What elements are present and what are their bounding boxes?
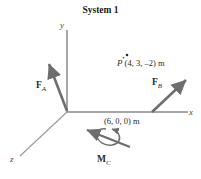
point-p-annotation: P•(4, 3, –2) m	[117, 53, 165, 69]
force-a-arrow	[49, 64, 67, 111]
point-p-coordinates: (4, 3, –2) m	[125, 58, 165, 68]
force-a-label: FA	[36, 81, 46, 93]
figure-title: System 1	[0, 6, 201, 16]
moment-c-label: MC	[97, 155, 111, 167]
force-b-label: FB	[152, 78, 162, 90]
diagram-canvas	[0, 0, 201, 179]
moment-rotation-curl-icon	[97, 129, 120, 145]
force-b-subscript: B	[158, 82, 162, 90]
x-axis-label: x	[189, 108, 193, 117]
z-axis-line	[20, 112, 67, 156]
origin-point-coordinates: (6, 0, 0) m	[104, 117, 140, 126]
moment-c-subscript: C	[106, 159, 111, 167]
moment-c-symbol: M	[97, 154, 106, 164]
y-axis-label: y	[60, 21, 64, 30]
z-axis-label: z	[10, 155, 14, 164]
force-a-subscript: A	[42, 85, 46, 93]
system-1-diagram: System 1 y x z FA FB MC P•(4, 3, –2) m (…	[0, 0, 201, 179]
